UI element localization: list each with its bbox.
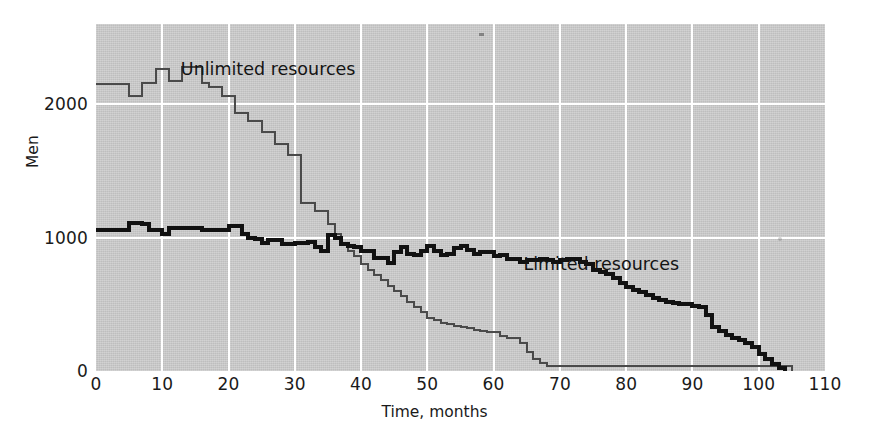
- x-tick-label: 60: [483, 376, 505, 393]
- y-tick-label: 1000: [30, 229, 88, 246]
- series-label-unlimited: Unlimited resources: [181, 59, 356, 79]
- x-tick-label: 20: [218, 376, 240, 393]
- x-axis-title: Time, months: [0, 403, 869, 421]
- x-tick-label: 50: [416, 376, 438, 393]
- y-tick-label: 2000: [30, 96, 88, 113]
- x-tick-label: 110: [808, 376, 841, 393]
- scan-speck: [778, 237, 782, 241]
- x-tick-label: 0: [90, 376, 101, 393]
- x-tick-label: 90: [681, 376, 703, 393]
- series-line-unlimited: [96, 67, 792, 371]
- x-tick-label: 70: [549, 376, 571, 393]
- series-line-limited: [96, 223, 785, 371]
- scan-speck: [479, 33, 484, 36]
- x-tick-label: 80: [615, 376, 637, 393]
- x-tick-label: 100: [742, 376, 775, 393]
- series-label-limited: Limited resources: [523, 254, 679, 274]
- y-tick-label: 0: [30, 363, 88, 380]
- y-axis-title: Men: [24, 135, 42, 168]
- chart-figure: 0102030405060708090100110 010002000 Time…: [0, 0, 869, 444]
- x-tick-label: 10: [151, 376, 173, 393]
- x-tick-label: 30: [284, 376, 306, 393]
- x-tick-label: 40: [350, 376, 372, 393]
